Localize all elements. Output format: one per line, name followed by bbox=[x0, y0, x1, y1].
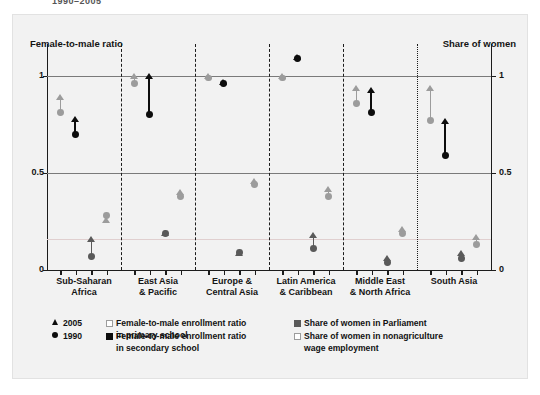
legend-series-label-1: Female-to-male enrollment ratio in secon… bbox=[116, 331, 246, 354]
legend-swatch-3 bbox=[294, 333, 301, 340]
legend-swatch-2 bbox=[294, 320, 301, 327]
legend-series-label-3: Share of women in nonagriculture wage em… bbox=[304, 331, 443, 354]
figure-container: 1990–2005 Female-to-male ratio Share of … bbox=[0, 0, 540, 395]
legend-swatch-0 bbox=[106, 320, 113, 327]
legend-year-label-2005: 2005 bbox=[63, 318, 82, 330]
legend-triangle-2005 bbox=[52, 319, 58, 325]
legend-series-label-2: Share of women in Parliament bbox=[304, 318, 427, 330]
legend-swatch-1 bbox=[106, 333, 113, 340]
legend-circle-1990 bbox=[52, 332, 58, 338]
chart-legend: 20051990Female-to-male enrollment ratio … bbox=[0, 0, 540, 395]
legend-year-label-1990: 1990 bbox=[63, 331, 82, 343]
